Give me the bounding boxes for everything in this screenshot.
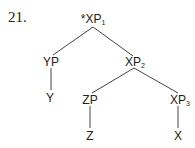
node-y: Y [46,92,54,104]
node-yp: YP [43,56,59,68]
node-label: Y [46,91,54,105]
example-number: 21. [8,9,27,26]
node-root-xp1: *XP1 [81,13,106,29]
node-x: X [174,130,182,142]
node-label: XP [125,55,141,69]
node-label: Z [86,129,93,143]
node-label: ZP [82,93,97,107]
node-xp2: XP2 [125,56,145,72]
branch-root-yp [53,27,93,55]
node-zp: ZP [82,94,97,106]
node-subscript: 2 [141,62,145,69]
node-subscript: 1 [101,19,105,26]
node-label: XP [170,93,186,107]
branch-root-xp2 [93,27,133,56]
node-subscript: 3 [186,100,190,107]
node-label: YP [43,55,59,69]
node-label: XP [85,12,101,26]
node-z: Z [86,130,93,142]
syntax-tree-diagram: 21. *XP1 YP Y XP2 ZP Z XP3 X [0,0,195,148]
node-xp3: XP3 [170,94,190,110]
node-label: X [174,129,182,143]
